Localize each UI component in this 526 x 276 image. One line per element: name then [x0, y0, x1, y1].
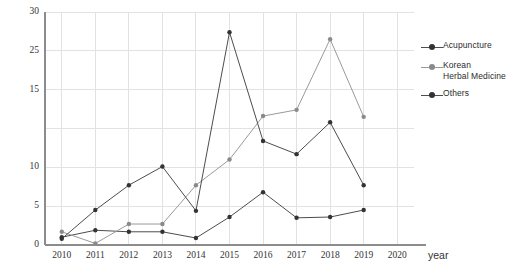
legend-marker-icon: [421, 90, 443, 101]
series-point: [328, 215, 332, 219]
series-point: [294, 152, 298, 156]
chart-gridlines: [45, 12, 414, 245]
legend-item[interactable]: Acupuncture: [421, 40, 525, 53]
series-point: [160, 222, 164, 226]
series-point: [361, 208, 365, 212]
legend-marker-icon: [421, 62, 443, 73]
x-axis-title: year: [428, 249, 448, 261]
chart-container: 0 5 10 15 25 30 201020112012201320142015…: [0, 0, 526, 276]
series-point: [127, 230, 131, 234]
series-point: [227, 157, 231, 161]
series-point: [227, 215, 231, 219]
y-tick-label: 30: [13, 6, 39, 16]
series-point: [227, 30, 231, 34]
series-point: [127, 222, 131, 226]
series-point: [194, 209, 198, 213]
series-point: [328, 120, 332, 124]
series-point: [294, 108, 298, 112]
series-point: [328, 37, 332, 41]
series-point: [127, 183, 131, 187]
series-point: [194, 183, 198, 187]
y-tick-label: 0: [13, 239, 39, 249]
series-point: [294, 216, 298, 220]
legend-marker-icon: [421, 42, 443, 53]
series-line: [62, 39, 364, 243]
legend-item-label: Korean Herbal Medicine: [443, 60, 506, 81]
series-point: [160, 230, 164, 234]
series-point: [160, 164, 164, 168]
series-point: [93, 228, 97, 232]
series-point: [361, 183, 365, 187]
series-point: [361, 115, 365, 119]
y-tick-label: 10: [13, 161, 39, 171]
legend-item[interactable]: Others: [421, 88, 525, 101]
series-point: [60, 230, 64, 234]
series-point: [60, 237, 64, 241]
chart-legend: Acupuncture Korean Herbal Medicine Other…: [421, 40, 525, 108]
x-tick-label: 2020: [377, 250, 417, 260]
y-tick-label: 5: [13, 200, 39, 210]
series-point: [93, 208, 97, 212]
legend-item[interactable]: Korean Herbal Medicine: [421, 60, 525, 81]
series-point: [261, 190, 265, 194]
chart-series: [60, 30, 366, 246]
series-point: [194, 236, 198, 240]
legend-item-label: Others: [443, 88, 469, 99]
y-tick-label: 25: [13, 45, 39, 55]
series-point: [261, 139, 265, 143]
series-point: [93, 241, 97, 245]
legend-item-label: Acupuncture: [443, 40, 492, 51]
series-point: [261, 114, 265, 118]
series-line: [62, 192, 364, 238]
y-tick-label: 15: [13, 84, 39, 94]
